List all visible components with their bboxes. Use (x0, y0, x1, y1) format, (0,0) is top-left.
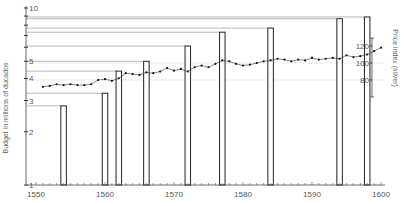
price-index-point (97, 79, 99, 81)
price-tick-label: 120 (356, 42, 370, 51)
bar-leader-lines (26, 17, 364, 106)
price-index-point (145, 71, 147, 73)
y-tick-label: 3 (29, 97, 34, 106)
gridlines (26, 63, 385, 80)
price-index-point (311, 57, 313, 59)
price-index-point (173, 70, 175, 72)
bar (116, 71, 122, 185)
price-index-point (125, 72, 127, 74)
price-index-point (111, 80, 113, 82)
price-index-point (276, 58, 278, 60)
x-tick-label: 1600 (372, 190, 390, 199)
price-index-point (366, 53, 368, 55)
y-tick-label: 5 (29, 57, 34, 66)
price-index-point (214, 63, 216, 65)
price-index-point (242, 64, 244, 66)
price-index-point (194, 66, 196, 68)
price-index-point (221, 59, 223, 61)
price-index-point (152, 72, 154, 74)
price-index-point (380, 47, 382, 49)
price-index-point (187, 70, 189, 72)
price-index-point (104, 78, 106, 80)
price-index-point (249, 64, 251, 66)
bar (144, 61, 150, 185)
price-index-point (166, 67, 168, 69)
price-index-point (297, 59, 299, 61)
price-index-point (207, 66, 209, 68)
price-index-line (42, 47, 382, 88)
price-index-polyline (43, 48, 381, 87)
price-index-point (90, 83, 92, 85)
price-index-point (49, 85, 51, 87)
price-index-point (304, 59, 306, 61)
x-tick-label: 1590 (303, 190, 321, 199)
price-index-point (318, 59, 320, 61)
price-index-point (325, 58, 327, 60)
y-tick-label: 1 (29, 181, 34, 190)
price-index-point (180, 68, 182, 70)
x-tick-label: 1550 (27, 190, 45, 199)
price-index-point (132, 73, 134, 75)
price-index-point (69, 83, 71, 85)
price-index-point (332, 57, 334, 59)
price-tick-label: 80 (360, 76, 369, 85)
price-index-point (138, 74, 140, 76)
y-tick-label: 10 (29, 4, 38, 13)
x-tick-label: 1560 (96, 190, 114, 199)
price-index-point (345, 54, 347, 56)
price-index-point (76, 84, 78, 86)
price-index-point (263, 60, 265, 62)
price-index-point (118, 77, 120, 79)
bars (61, 17, 370, 185)
price-index-point (270, 59, 272, 61)
price-index-point (290, 60, 292, 62)
price-index-axis-title: Price index (silver) (391, 29, 399, 87)
price-index-point (56, 83, 58, 85)
y-tick-label: 2 (29, 128, 34, 137)
price-index-point (42, 86, 44, 88)
price-index-point (63, 84, 65, 86)
price-tick-label: 100 (356, 59, 370, 68)
price-index-point (359, 55, 361, 57)
bar (185, 46, 191, 185)
price-index-point (283, 59, 285, 61)
price-index-point (339, 58, 341, 60)
price-index-point (235, 63, 237, 65)
bar (268, 28, 274, 185)
price-index-point (352, 56, 354, 58)
price-index-point (373, 50, 375, 52)
x-tick-label: 1570 (165, 190, 183, 199)
budget-price-chart: 1234510 155015601570158015901600 8010012… (0, 0, 407, 203)
bar (337, 19, 343, 185)
bar (220, 32, 226, 185)
y-axis-title: Budget in millions of ducados (2, 62, 10, 154)
x-axis: 155015601570158015901600 (26, 182, 390, 199)
price-index-point (228, 60, 230, 62)
bar (61, 106, 67, 185)
price-index-point (83, 84, 85, 86)
bar (102, 93, 108, 185)
y-tick-label: 4 (29, 74, 34, 83)
price-index-point (201, 64, 203, 66)
price-index-point (256, 62, 258, 64)
price-index-point (159, 70, 161, 72)
x-tick-label: 1580 (234, 190, 252, 199)
